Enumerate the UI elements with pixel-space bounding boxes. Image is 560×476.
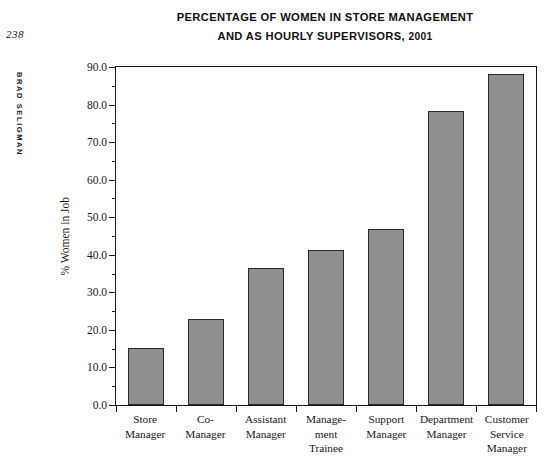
bar-chart: % Women in Job 0.010.020.030.040.050.060… [0, 0, 560, 476]
x-axis-category-label: StoreManager [115, 412, 175, 456]
x-axis-category-label-line: Support [357, 412, 415, 427]
y-axis-tick-label: 30.0 [87, 286, 107, 298]
x-axis-tick [536, 405, 537, 412]
bar [308, 250, 344, 405]
x-axis-category-label: CustomerServiceManager [477, 412, 537, 456]
x-axis-category-label-line: Trainee [297, 441, 355, 456]
bar-slot [296, 67, 356, 405]
y-axis-tick [109, 180, 116, 181]
x-axis-category-label-line: ment [297, 427, 355, 442]
x-axis-category-label-line: Manage- [297, 412, 355, 427]
bar-slot [356, 67, 416, 405]
x-axis-category-label-line: Manager [478, 441, 536, 456]
x-axis-tick [416, 405, 417, 412]
y-axis-tick [109, 330, 116, 331]
y-axis-tick-label: 0.0 [93, 399, 107, 411]
x-axis-category-label: DepartmentManager [416, 412, 476, 456]
y-axis-tick-label: 70.0 [87, 136, 107, 148]
bar-series [116, 67, 536, 405]
y-axis-tick-label: 60.0 [87, 174, 107, 186]
x-axis-tick [236, 405, 237, 412]
y-axis-tick [109, 367, 116, 368]
y-axis-tick-label: 90.0 [87, 61, 107, 73]
y-axis-tick [109, 67, 116, 68]
x-axis-category-label: AssistantManager [236, 412, 296, 456]
x-axis-tick [356, 405, 357, 412]
x-axis-category-label: Co-Manager [175, 412, 235, 456]
x-axis-tick [476, 405, 477, 412]
x-axis-category-label-line: Customer [478, 412, 536, 427]
x-axis-category-labels: StoreManagerCo-ManagerAssistantManagerMa… [115, 412, 537, 456]
x-axis-category-label-line: Service [478, 427, 536, 442]
y-axis-tick [109, 255, 116, 256]
x-axis-category-label-line: Manager [357, 427, 415, 442]
y-axis-title: % Women in Job [56, 66, 74, 406]
bar [248, 268, 284, 405]
y-axis-tick-label: 20.0 [87, 324, 107, 336]
x-axis-category-label-line: Manager [116, 427, 174, 442]
x-axis-tick [116, 405, 117, 412]
x-axis-tick [296, 405, 297, 412]
y-axis-tick [109, 217, 116, 218]
bar [128, 348, 164, 405]
bar [188, 319, 224, 405]
y-axis-tick [109, 105, 116, 106]
x-axis-category-label-line: Assistant [237, 412, 295, 427]
x-axis-category-label: SupportManager [356, 412, 416, 456]
y-axis-tick-label: 10.0 [87, 361, 107, 373]
x-axis-category-label-line: Co- [176, 412, 234, 427]
bar [428, 111, 464, 405]
x-axis-category-label-line: Manager [417, 427, 475, 442]
y-axis-tick-label: 80.0 [87, 99, 107, 111]
y-axis-tick-label: 50.0 [87, 211, 107, 223]
x-axis-category-label: Manage-mentTrainee [296, 412, 356, 456]
x-axis-tick [176, 405, 177, 412]
x-axis-category-label-line: Manager [176, 427, 234, 442]
bar-slot [176, 67, 236, 405]
y-axis-tick [109, 405, 116, 406]
plot-area: 0.010.020.030.040.050.060.070.080.090.0 [115, 66, 537, 406]
y-axis-title-label: % Women in Job [59, 197, 71, 275]
y-axis-tick [109, 292, 116, 293]
y-axis-tick-label: 40.0 [87, 249, 107, 261]
bar [488, 74, 524, 405]
bar [368, 229, 404, 405]
x-axis-category-label-line: Store [116, 412, 174, 427]
bar-slot [116, 67, 176, 405]
x-axis-category-label-line: Department [417, 412, 475, 427]
bar-slot [236, 67, 296, 405]
y-axis-tick [109, 142, 116, 143]
x-axis-category-label-line: Manager [237, 427, 295, 442]
bar-slot [476, 67, 536, 405]
bar-slot [416, 67, 476, 405]
